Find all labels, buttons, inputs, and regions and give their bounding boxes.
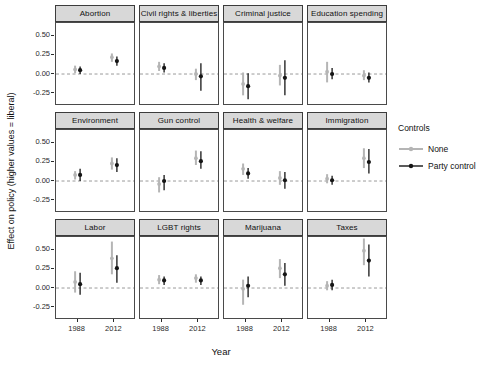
facet-strip-gun-control: Gun control [139, 112, 219, 129]
y-tick-label: -0.25 [24, 302, 50, 311]
facet-strip-abortion: Abortion [55, 5, 135, 22]
facet-panel-education-spending [307, 22, 387, 105]
x-tick-mark [329, 319, 330, 322]
x-axis-title: Year [171, 346, 271, 357]
facet-panel-lgbt-rights [139, 236, 219, 319]
legend-label-party-control: Party control [428, 161, 476, 171]
facet-strip-education-spending: Education spending [307, 5, 387, 22]
y-tick-mark [51, 35, 54, 36]
y-tick-mark [51, 92, 54, 93]
facet-panel-criminal-justice [223, 22, 303, 105]
legend: Controls None Party control [398, 123, 476, 174]
y-tick-mark [51, 161, 54, 162]
y-tick-label: -0.25 [24, 195, 50, 204]
y-tick-mark [51, 180, 54, 181]
facet-strip-criminal-justice: Criminal justice [223, 5, 303, 22]
facet-strip-lgbt-rights: LGBT rights [139, 219, 219, 236]
facet-strip-environment: Environment [55, 112, 135, 129]
facet-strip-marijuana: Marijuana [223, 219, 303, 236]
y-tick-mark [51, 287, 54, 288]
y-tick-label: 0.50 [24, 30, 50, 39]
y-tick-mark [51, 268, 54, 269]
y-axis-title: Effect on policy (higher values = libera… [6, 6, 18, 336]
legend-item-party-control: Party control [398, 157, 476, 174]
x-tick-label: 1988 [230, 324, 260, 333]
x-tick-label: 1988 [314, 324, 344, 333]
x-tick-label: 2012 [266, 324, 296, 333]
y-tick-mark [51, 54, 54, 55]
facet-panel-labor [55, 236, 135, 319]
x-tick-mark [113, 319, 114, 322]
x-tick-mark [365, 319, 366, 322]
facet-panel-marijuana [223, 236, 303, 319]
x-tick-mark [77, 319, 78, 322]
facet-strip-health-welfare: Health & welfare [223, 112, 303, 129]
facet-strip-taxes: Taxes [307, 219, 387, 236]
x-tick-mark [245, 319, 246, 322]
x-tick-label: 2012 [350, 324, 380, 333]
x-tick-mark [281, 319, 282, 322]
legend-title: Controls [398, 123, 476, 133]
y-tick-mark [51, 199, 54, 200]
y-tick-label: 0.25 [24, 49, 50, 58]
y-tick-label: 0.00 [24, 283, 50, 292]
y-tick-mark [51, 249, 54, 250]
facet-strip-immigration: Immigration [307, 112, 387, 129]
y-tick-mark [51, 306, 54, 307]
y-tick-label: 0.50 [24, 244, 50, 253]
y-tick-mark [51, 142, 54, 143]
facet-strip-civil-rights-liberties: Civil rights & liberties [139, 5, 219, 22]
x-tick-mark [161, 319, 162, 322]
facet-panel-immigration [307, 129, 387, 212]
y-tick-label: 0.00 [24, 69, 50, 78]
x-tick-label: 1988 [146, 324, 176, 333]
facet-panel-taxes [307, 236, 387, 319]
point-range-key-icon [398, 144, 424, 154]
facet-panel-environment [55, 129, 135, 212]
y-tick-label: 0.25 [24, 263, 50, 272]
y-tick-label: 0.00 [24, 176, 50, 185]
legend-item-none: None [398, 140, 476, 157]
y-tick-mark [51, 73, 54, 74]
x-tick-label: 2012 [98, 324, 128, 333]
y-tick-label: -0.25 [24, 88, 50, 97]
facet-panel-civil-rights-liberties [139, 22, 219, 105]
facet-panel-gun-control [139, 129, 219, 212]
point-range-key-icon [398, 161, 424, 171]
y-tick-label: 0.25 [24, 156, 50, 165]
y-tick-label: 0.50 [24, 137, 50, 146]
facet-panel-health-welfare [223, 129, 303, 212]
x-tick-mark [197, 319, 198, 322]
faceted-effect-plot: Effect on policy (higher values = libera… [0, 0, 485, 370]
facet-strip-labor: Labor [55, 219, 135, 236]
x-tick-label: 2012 [182, 324, 212, 333]
facet-panel-abortion [55, 22, 135, 105]
legend-label-none: None [428, 144, 448, 154]
x-tick-label: 1988 [62, 324, 92, 333]
